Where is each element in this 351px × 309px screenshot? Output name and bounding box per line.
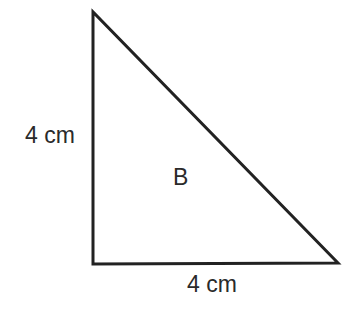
- triangle-b-shape: [93, 12, 338, 264]
- triangle-name-label: B: [173, 164, 188, 190]
- bottom-side-label: 4 cm: [187, 271, 237, 297]
- triangle-diagram: 4 cm B 4 cm: [0, 0, 351, 309]
- left-side-label: 4 cm: [25, 122, 75, 148]
